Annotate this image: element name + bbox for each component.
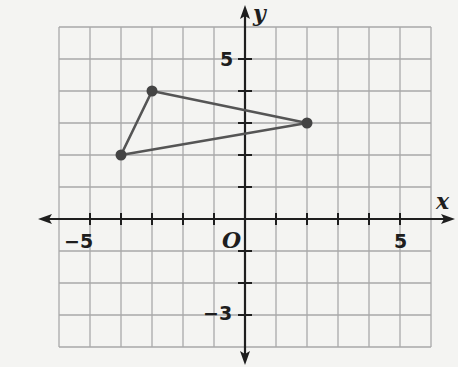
axis-labels: x y O −5 5 5 −3 [64,0,450,324]
y-tick-label-neg3: −3 [203,302,232,324]
y-tick-label-5: 5 [220,48,233,70]
x-axis-label: x [435,188,450,214]
origin-label: O [222,227,241,253]
x-tick-label-5: 5 [394,230,407,252]
y-axis-label: y [252,0,268,26]
x-tick-label-neg5: −5 [64,230,93,252]
coordinate-plane: x y O −5 5 5 −3 [0,0,458,367]
vertex-point [147,86,158,97]
vertex-point [302,118,313,129]
coordinate-plane-svg: x y O −5 5 5 −3 [0,0,458,367]
vertex-point [116,150,127,161]
